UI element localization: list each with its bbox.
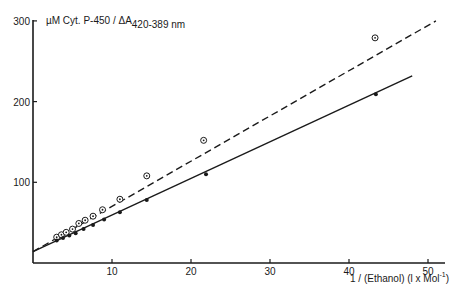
data-point-open — [117, 196, 123, 202]
data-point-open — [201, 137, 207, 143]
open-circle-center — [92, 215, 94, 217]
open-circle-center — [78, 223, 80, 225]
open-circle-center — [374, 37, 376, 39]
data-point-filled — [374, 92, 378, 96]
data-point-open — [100, 207, 106, 213]
open-circle-center — [65, 231, 67, 233]
data-point-open — [70, 226, 76, 232]
data-point-open — [372, 35, 378, 41]
x-tick-label: 30 — [264, 266, 276, 277]
data-point-filled — [61, 236, 65, 240]
data-point-filled — [102, 217, 106, 221]
y-axis-title-main: µM Cyt. P-450 / ΔA — [46, 15, 132, 26]
open-circle-center — [56, 236, 58, 238]
data-point-open — [90, 213, 96, 219]
x-axis-title: 1 / (Ethanol) (l x Mol-1) — [350, 271, 449, 284]
data-point-open — [144, 173, 150, 179]
data-point-filled — [145, 198, 149, 202]
data-point-filled — [67, 234, 71, 238]
y-tick-label: 100 — [13, 177, 30, 188]
y-tick-label: 200 — [13, 97, 30, 108]
data-point-filled — [91, 223, 95, 227]
y-axis-title-subscript: 420-389 nm — [132, 19, 185, 30]
data-point-filled — [118, 210, 122, 214]
data-point-open — [82, 217, 88, 223]
open-circle-center — [203, 139, 205, 141]
open-circle-center — [119, 198, 121, 200]
open-circle-center — [61, 234, 63, 236]
open-circle-center — [102, 209, 104, 211]
data-point-filled — [82, 227, 86, 231]
data-point-filled — [204, 172, 208, 176]
y-axis-title: µM Cyt. P-450 / ΔA420-389 nm — [46, 15, 185, 30]
x-axis-title-main: 1 / (Ethanol) (l x Mol — [350, 273, 439, 284]
x-axis-title-suffix: ) — [446, 273, 449, 284]
y-tick-label: 300 — [13, 16, 30, 27]
data-points — [54, 35, 378, 243]
data-point-open — [76, 220, 82, 226]
x-tick-label: 20 — [185, 266, 197, 277]
chart: 1020304050 100200300 µM Cyt. P-450 / ΔA4… — [0, 0, 458, 284]
data-point-filled — [55, 238, 59, 242]
open-circle-center — [84, 219, 86, 221]
data-point-filled — [74, 231, 78, 235]
open-circle-center — [146, 175, 148, 177]
axes — [33, 20, 445, 263]
x-tick-label: 10 — [106, 266, 118, 277]
open-circle-center — [72, 228, 74, 230]
fit-line-solid — [33, 76, 412, 252]
